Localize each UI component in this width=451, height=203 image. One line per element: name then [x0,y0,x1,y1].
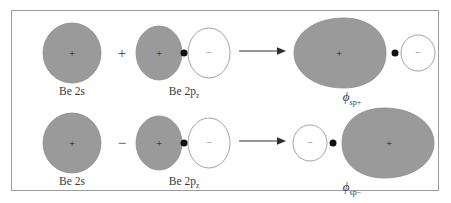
label-subscript: sp− [350,188,362,197]
orbital-phi-sp-plus: + − ϕsp+ [290,12,438,102]
charge-sign-positive-lobe: + [156,48,162,59]
arrow-right-icon [237,44,287,58]
nucleus-dot [181,50,188,57]
charge-sign-negative-lobe: − [415,48,421,58]
nucleus-dot [330,140,337,147]
label-subscript: z [196,91,199,100]
orbital-label-be-2pz: Be 2pz [169,86,200,100]
orbital-label-be-2s: Be 2s [59,86,85,98]
charge-sign-positive-lobe: + [386,138,392,149]
orbital-be-2s-bottom: + Be 2s [32,102,112,192]
charge-sign-positive: + [69,138,75,149]
label-main: ϕ [343,179,350,194]
charge-sign-positive-lobe: + [156,138,162,149]
label-main: Be 2p [169,85,196,97]
orbital-label-be-2pz: Be 2pz [169,176,200,190]
reaction-arrow [237,134,287,152]
operator-minus: − [118,136,126,151]
charge-sign-negative-lobe: − [206,48,212,58]
orbital-be-2pz-top: + − Be 2pz [134,12,234,102]
arrow-right-icon [237,134,287,148]
charge-sign-negative-lobe: − [307,138,313,148]
reaction-row-sp-minus: + Be 2s − + − Be 2pz [12,102,438,192]
label-main: Be 2p [169,175,196,187]
label-subscript: z [196,181,199,190]
orbital-be-2pz-bottom: + − Be 2pz [134,102,234,192]
figure-frame: + Be 2s + + − Be 2pz [11,10,439,191]
nucleus-dot [181,140,188,147]
charge-sign-positive-lobe: + [336,48,342,59]
operator-plus: + [118,46,126,61]
charge-sign-positive: + [69,48,75,59]
reaction-row-sp-plus: + Be 2s + + − Be 2pz [12,12,438,102]
orbital-phi-sp-minus: − + ϕsp− [290,102,438,192]
orbital-label-be-2s: Be 2s [59,176,85,188]
nucleus-dot [392,50,399,57]
orbital-label-phi-sp-minus: ϕsp− [343,180,361,197]
reaction-arrow [237,44,287,62]
orbital-be-2s-top: + Be 2s [32,12,112,102]
charge-sign-negative-lobe: − [206,138,212,148]
